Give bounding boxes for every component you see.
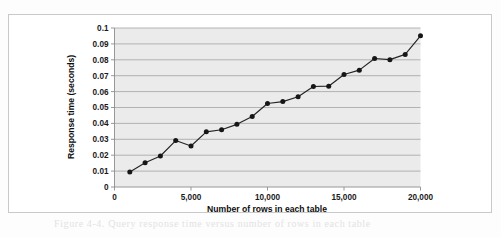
y-tick-label: 0.09 <box>93 40 109 49</box>
data-point <box>418 33 423 38</box>
y-tick-label: 0.03 <box>93 135 109 144</box>
line-chart: 00.010.020.030.040.050.060.070.080.090.1… <box>0 0 501 237</box>
data-point <box>189 143 194 148</box>
y-axis-ticks: 00.010.020.030.040.050.060.070.080.090.1 <box>93 24 115 192</box>
scan-caption-smudge: Figure 4-4. Query response time versus n… <box>54 218 371 229</box>
y-tick-label: 0.04 <box>93 119 109 128</box>
y-tick-label: 0.1 <box>97 24 109 33</box>
data-point <box>265 101 270 106</box>
data-point <box>296 94 301 99</box>
data-point <box>311 84 316 89</box>
x-axis-title: Number of rows in each table <box>207 204 327 214</box>
data-point <box>357 68 362 73</box>
data-point <box>326 84 331 89</box>
y-tick-label: 0.08 <box>93 56 109 65</box>
x-tick-label: 5,000 <box>181 193 202 202</box>
y-tick-label: 0.07 <box>93 72 109 81</box>
data-point <box>173 138 178 143</box>
y-tick-label: 0.05 <box>93 103 109 112</box>
y-tick-label: 0 <box>104 183 109 192</box>
data-point <box>219 127 224 132</box>
data-point <box>280 99 285 104</box>
y-axis-title: Response time (seconds) <box>66 55 76 159</box>
data-point <box>387 57 392 62</box>
data-point <box>250 114 255 119</box>
y-tick-label: 0.02 <box>93 151 109 160</box>
x-axis-ticks: 05,00010,00015,00020,000 <box>112 187 433 202</box>
x-tick-label: 20,000 <box>408 193 433 202</box>
data-point <box>143 160 148 165</box>
data-point <box>127 169 132 174</box>
x-tick-label: 0 <box>112 193 117 202</box>
data-point <box>158 154 163 159</box>
x-tick-label: 15,000 <box>331 193 356 202</box>
x-tick-label: 10,000 <box>255 193 280 202</box>
data-point <box>342 72 347 77</box>
figure-root: 00.010.020.030.040.050.060.070.080.090.1… <box>0 0 501 237</box>
y-tick-label: 0.01 <box>93 167 109 176</box>
y-tick-label: 0.06 <box>93 88 109 97</box>
data-point <box>403 52 408 57</box>
data-point <box>204 129 209 134</box>
data-point <box>372 56 377 61</box>
data-point <box>234 122 239 127</box>
